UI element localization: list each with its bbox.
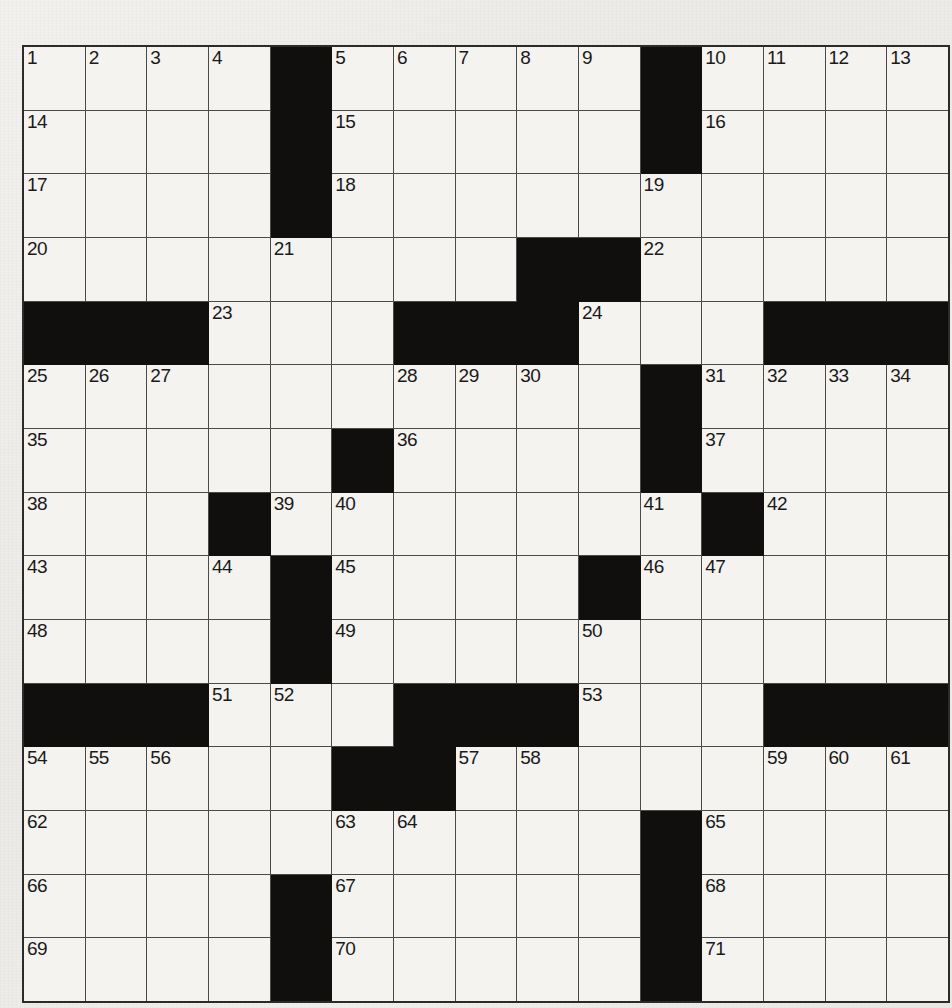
grid-open-cell[interactable] [208, 365, 270, 429]
grid-open-cell[interactable] [825, 938, 887, 1002]
grid-open-cell[interactable] [887, 237, 949, 301]
grid-open-cell[interactable] [270, 365, 332, 429]
grid-open-cell[interactable] [887, 810, 949, 874]
grid-open-cell[interactable] [208, 810, 270, 874]
grid-open-cell[interactable] [763, 810, 825, 874]
grid-open-cell[interactable]: 49 [332, 619, 394, 683]
grid-open-cell[interactable]: 10 [702, 46, 764, 110]
grid-open-cell[interactable] [763, 174, 825, 238]
grid-open-cell[interactable] [763, 237, 825, 301]
grid-open-cell[interactable] [825, 110, 887, 174]
grid-open-cell[interactable]: 26 [85, 365, 147, 429]
grid-open-cell[interactable] [887, 174, 949, 238]
grid-open-cell[interactable]: 13 [887, 46, 949, 110]
grid-open-cell[interactable] [702, 619, 764, 683]
grid-open-cell[interactable] [208, 747, 270, 811]
grid-open-cell[interactable]: 37 [702, 428, 764, 492]
grid-open-cell[interactable]: 2 [85, 46, 147, 110]
grid-open-cell[interactable] [887, 110, 949, 174]
grid-open-cell[interactable] [332, 237, 394, 301]
grid-open-cell[interactable]: 42 [763, 492, 825, 556]
grid-open-cell[interactable] [85, 556, 147, 620]
grid-open-cell[interactable]: 39 [270, 492, 332, 556]
grid-open-cell[interactable] [578, 810, 640, 874]
grid-open-cell[interactable] [332, 365, 394, 429]
grid-open-cell[interactable] [702, 683, 764, 747]
grid-open-cell[interactable] [825, 492, 887, 556]
grid-open-cell[interactable]: 6 [393, 46, 455, 110]
grid-open-cell[interactable]: 4 [208, 46, 270, 110]
grid-open-cell[interactable] [393, 110, 455, 174]
grid-open-cell[interactable] [825, 237, 887, 301]
grid-open-cell[interactable]: 23 [208, 301, 270, 365]
grid-open-cell[interactable]: 32 [763, 365, 825, 429]
grid-open-cell[interactable]: 44 [208, 556, 270, 620]
grid-open-cell[interactable] [455, 810, 517, 874]
grid-open-cell[interactable] [578, 492, 640, 556]
grid-open-cell[interactable] [332, 301, 394, 365]
grid-open-cell[interactable] [85, 492, 147, 556]
grid-open-cell[interactable] [455, 938, 517, 1002]
grid-open-cell[interactable] [517, 174, 579, 238]
grid-open-cell[interactable]: 66 [23, 874, 85, 938]
grid-open-cell[interactable] [208, 110, 270, 174]
grid-open-cell[interactable] [393, 492, 455, 556]
grid-open-cell[interactable]: 38 [23, 492, 85, 556]
grid-open-cell[interactable]: 25 [23, 365, 85, 429]
grid-open-cell[interactable] [640, 619, 702, 683]
grid-open-cell[interactable] [517, 492, 579, 556]
grid-open-cell[interactable]: 43 [23, 556, 85, 620]
grid-open-cell[interactable]: 3 [147, 46, 209, 110]
grid-open-cell[interactable]: 18 [332, 174, 394, 238]
grid-open-cell[interactable]: 28 [393, 365, 455, 429]
grid-open-cell[interactable] [578, 365, 640, 429]
grid-open-cell[interactable] [702, 301, 764, 365]
grid-open-cell[interactable]: 50 [578, 619, 640, 683]
grid-open-cell[interactable] [455, 556, 517, 620]
grid-open-cell[interactable] [208, 619, 270, 683]
grid-open-cell[interactable] [578, 747, 640, 811]
grid-open-cell[interactable] [147, 938, 209, 1002]
grid-open-cell[interactable] [393, 556, 455, 620]
grid-open-cell[interactable] [517, 938, 579, 1002]
grid-open-cell[interactable] [763, 110, 825, 174]
grid-open-cell[interactable]: 5 [332, 46, 394, 110]
grid-open-cell[interactable]: 14 [23, 110, 85, 174]
grid-open-cell[interactable] [270, 810, 332, 874]
grid-open-cell[interactable]: 34 [887, 365, 949, 429]
grid-open-cell[interactable] [270, 301, 332, 365]
grid-open-cell[interactable]: 65 [702, 810, 764, 874]
grid-open-cell[interactable] [702, 237, 764, 301]
grid-open-cell[interactable] [517, 110, 579, 174]
grid-open-cell[interactable] [825, 174, 887, 238]
grid-open-cell[interactable] [763, 874, 825, 938]
grid-open-cell[interactable] [825, 810, 887, 874]
grid-open-cell[interactable]: 8 [517, 46, 579, 110]
grid-open-cell[interactable] [887, 492, 949, 556]
grid-open-cell[interactable]: 69 [23, 938, 85, 1002]
grid-open-cell[interactable]: 59 [763, 747, 825, 811]
grid-open-cell[interactable] [455, 492, 517, 556]
grid-open-cell[interactable] [85, 110, 147, 174]
grid-open-cell[interactable] [825, 874, 887, 938]
grid-open-cell[interactable] [578, 428, 640, 492]
grid-open-cell[interactable] [147, 237, 209, 301]
grid-open-cell[interactable]: 55 [85, 747, 147, 811]
grid-open-cell[interactable] [393, 237, 455, 301]
grid-open-cell[interactable]: 51 [208, 683, 270, 747]
grid-open-cell[interactable] [85, 237, 147, 301]
grid-open-cell[interactable]: 29 [455, 365, 517, 429]
grid-open-cell[interactable] [270, 428, 332, 492]
grid-open-cell[interactable] [393, 619, 455, 683]
grid-open-cell[interactable]: 7 [455, 46, 517, 110]
grid-open-cell[interactable] [578, 110, 640, 174]
grid-open-cell[interactable]: 17 [23, 174, 85, 238]
grid-open-cell[interactable]: 15 [332, 110, 394, 174]
grid-open-cell[interactable] [763, 938, 825, 1002]
grid-open-cell[interactable] [763, 619, 825, 683]
grid-open-cell[interactable] [85, 810, 147, 874]
grid-open-cell[interactable] [763, 428, 825, 492]
grid-open-cell[interactable]: 68 [702, 874, 764, 938]
grid-open-cell[interactable] [147, 428, 209, 492]
grid-open-cell[interactable] [393, 874, 455, 938]
